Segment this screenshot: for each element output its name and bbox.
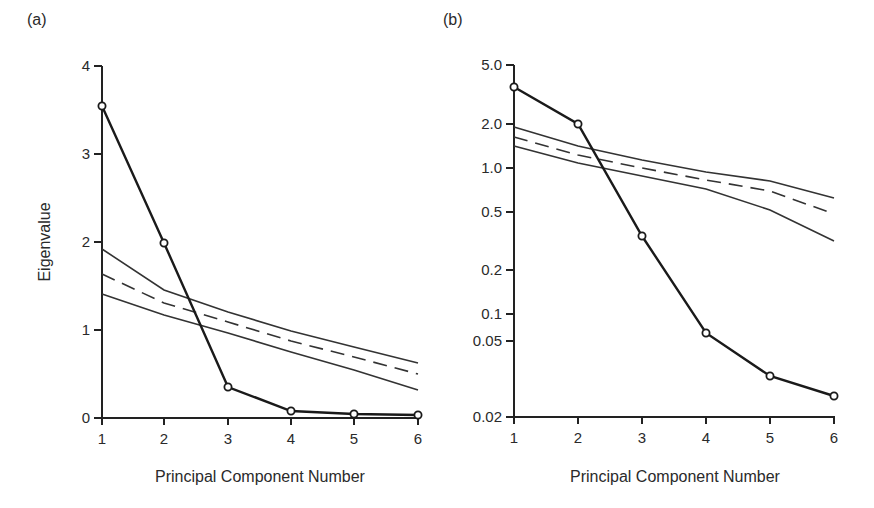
- y-tick-label: 0.1: [481, 305, 502, 322]
- panel-b-x-axis-label: Principal Component Number: [570, 468, 781, 485]
- x-tick-label: 2: [574, 429, 582, 446]
- observed-eigenvalue-line: [102, 106, 418, 415]
- data-point-marker: [766, 372, 773, 379]
- eigenvalue-scree-plots: (a) Eigenvalue Principal Component Numbe…: [0, 0, 874, 508]
- y-tick-label: 1.0: [481, 159, 502, 176]
- data-point-marker: [224, 383, 231, 390]
- data-point-marker: [510, 83, 517, 90]
- panel-b-series: [510, 83, 837, 399]
- data-point-marker: [702, 329, 709, 336]
- x-tick-label: 6: [414, 430, 422, 447]
- panel-a-series: [98, 102, 421, 418]
- panel-b-log-scale: (b) Principal Component Number 0.020.050…: [443, 11, 838, 485]
- x-tick-label: 4: [287, 430, 295, 447]
- data-point-marker: [160, 239, 167, 246]
- panel-a-linear-scale: (a) Eigenvalue Principal Component Numbe…: [27, 11, 422, 485]
- x-tick-label: 2: [160, 430, 168, 447]
- panel-b-axes: 0.020.050.10.20.51.02.05.0123456: [473, 56, 838, 446]
- x-tick-label: 6: [830, 429, 838, 446]
- x-tick-label: 1: [510, 429, 518, 446]
- data-point-marker: [574, 120, 581, 127]
- lower-bound-line: [102, 294, 418, 390]
- data-point-marker: [98, 102, 105, 109]
- data-point-marker: [638, 232, 645, 239]
- data-point-marker: [414, 411, 421, 418]
- y-tick-label: 0.5: [481, 203, 502, 220]
- data-point-marker: [287, 407, 294, 414]
- mean-dashed-line: [514, 137, 834, 214]
- panel-a-y-axis-label: Eigenvalue: [36, 202, 53, 281]
- y-tick-label: 1: [82, 321, 90, 338]
- panel-a-axes: 01234123456: [82, 57, 423, 447]
- x-tick-label: 4: [702, 429, 710, 446]
- panel-a-label: (a): [27, 11, 47, 28]
- panel-a-x-axis-label: Principal Component Number: [155, 468, 366, 485]
- x-tick-label: 3: [638, 429, 646, 446]
- mean-dashed-line: [102, 274, 418, 374]
- upper-bound-line: [514, 127, 834, 198]
- y-tick-label: 2.0: [481, 115, 502, 132]
- x-tick-label: 1: [98, 430, 106, 447]
- lower-bound-line: [514, 146, 834, 241]
- x-tick-label: 5: [350, 430, 358, 447]
- panel-b-label: (b): [443, 11, 463, 28]
- y-tick-label: 2: [82, 233, 90, 250]
- data-point-marker: [830, 392, 837, 399]
- y-tick-label: 0.2: [481, 261, 502, 278]
- data-point-marker: [350, 410, 357, 417]
- y-tick-label: 0.05: [473, 332, 502, 349]
- upper-bound-line: [102, 249, 418, 363]
- y-tick-label: 0: [82, 409, 90, 426]
- observed-eigenvalue-line: [514, 87, 834, 396]
- y-tick-label: 4: [82, 57, 90, 74]
- y-tick-label: 3: [82, 145, 90, 162]
- x-tick-label: 3: [224, 430, 232, 447]
- y-tick-label: 5.0: [481, 56, 502, 73]
- y-tick-label: 0.02: [473, 408, 502, 425]
- x-tick-label: 5: [766, 429, 774, 446]
